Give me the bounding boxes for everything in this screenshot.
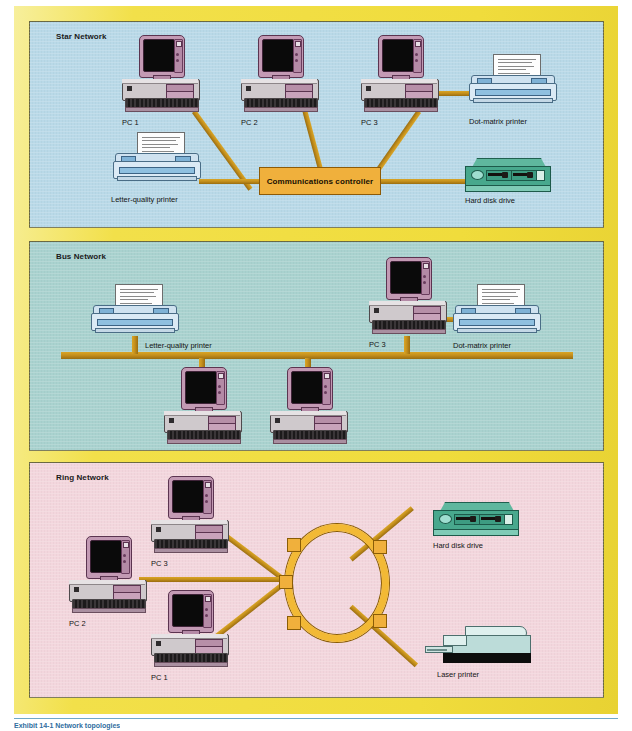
- label-ring-pc-3: PC 3: [151, 559, 168, 568]
- monitor-led: [205, 596, 211, 602]
- label-bus-pc-3: PC 3: [369, 340, 386, 349]
- monitor-led: [423, 263, 429, 269]
- label-star-letter-quality-printer: Letter-quality printer: [111, 195, 178, 204]
- printer-foot: [117, 176, 197, 181]
- laser-body-left: [443, 635, 467, 646]
- monitor-knob-icon: [423, 275, 426, 278]
- monitor-knob-icon: [176, 53, 179, 56]
- bus-drop-pc-3: [404, 336, 410, 354]
- monitor-knob-icon: [205, 614, 208, 617]
- hdd-dial-icon: [439, 514, 452, 524]
- printer-paper-slot: [475, 89, 551, 96]
- ring-node-pc3: [287, 538, 301, 552]
- ring-pc-3[interactable]: [151, 476, 227, 550]
- bus-letter-quality-printer[interactable]: [91, 284, 177, 334]
- monitor-led: [218, 373, 224, 379]
- cable-ring-pc2: [139, 577, 289, 582]
- monitor-knob-icon: [324, 385, 327, 388]
- keyboard-base: [244, 107, 318, 112]
- laser-tray-arm: [427, 649, 447, 651]
- monitor-screen: [291, 371, 323, 404]
- monitor-led: [295, 41, 301, 47]
- monitor-knob-icon: [415, 59, 418, 62]
- label-star-hard-disk-drive: Hard disk drive: [465, 196, 515, 205]
- label-bus-pc-2: PC 2: [270, 449, 287, 451]
- caption-rule: [14, 718, 618, 719]
- monitor-led: [123, 542, 129, 548]
- star-dot-matrix-printer[interactable]: [469, 54, 555, 104]
- bus-pc-3[interactable]: [369, 257, 445, 331]
- figure-network-topologies: Star Network Communications controller: [0, 0, 632, 731]
- label-bus-dot-matrix-printer: Dot-matrix printer: [453, 341, 511, 350]
- hdd-dial-icon: [471, 170, 484, 180]
- power-button-icon: [374, 308, 379, 313]
- communications-controller[interactable]: Communications controller: [259, 167, 381, 195]
- monitor-knob-icon: [123, 560, 126, 563]
- printer-paper-slot: [459, 319, 535, 326]
- monitor-knob-icon: [295, 59, 298, 62]
- star-pc-1[interactable]: [122, 35, 198, 109]
- printer-foot: [457, 328, 537, 333]
- cable-hub-to-hdd: [377, 179, 469, 184]
- label-star-pc-2: PC 2: [241, 118, 258, 127]
- bus-pc-1[interactable]: [164, 367, 240, 441]
- ring-node-pc1: [287, 616, 301, 630]
- monitor-screen: [143, 39, 175, 72]
- monitor-knob-icon: [205, 608, 208, 611]
- figure-caption: Exhibit 14-1 Network topologies: [14, 722, 120, 731]
- monitor-knob-icon: [123, 554, 126, 557]
- star-hard-disk-drive[interactable]: [465, 158, 549, 193]
- bus-pc-2[interactable]: [270, 367, 346, 441]
- keyboard-base: [72, 608, 146, 613]
- power-button-icon: [74, 587, 79, 592]
- label-star-dot-matrix-printer: Dot-matrix printer: [469, 117, 527, 126]
- hdd-base: [465, 185, 551, 192]
- power-button-icon: [366, 86, 371, 91]
- star-pc-3[interactable]: [361, 35, 437, 109]
- label-ring-hard-disk-drive: Hard disk drive: [433, 541, 483, 550]
- panel-ring-network: Ring Network PC: [29, 462, 604, 698]
- keyboard-base: [167, 439, 241, 444]
- cable-letter-printer-to-hub: [199, 179, 264, 184]
- keyboard-base: [372, 329, 446, 334]
- label-star-pc-1: PC 1: [122, 118, 139, 127]
- monitor-knob-icon: [218, 391, 221, 394]
- ring-hard-disk-drive[interactable]: [433, 502, 517, 537]
- star-pc-2[interactable]: [241, 35, 317, 109]
- power-button-icon: [275, 418, 280, 423]
- star-letter-quality-printer[interactable]: [113, 132, 199, 182]
- keyboard-base: [273, 439, 347, 444]
- monitor-knob-icon: [324, 391, 327, 394]
- monitor-screen: [262, 39, 294, 72]
- laser-base: [443, 653, 531, 663]
- monitor-knob-icon: [295, 53, 298, 56]
- monitor-knob-icon: [176, 59, 179, 62]
- power-button-icon: [246, 86, 251, 91]
- panel-title-bus: Bus Network: [56, 252, 106, 261]
- keyboard-base: [154, 548, 228, 553]
- panel-star-network: Star Network Communications controller: [29, 21, 604, 228]
- monitor-knob-icon: [205, 500, 208, 503]
- keyboard-base: [154, 662, 228, 667]
- monitor-led: [205, 482, 211, 488]
- bus-drop-letter-printer: [132, 336, 138, 354]
- hdd-bay-knob-icon: [495, 516, 501, 522]
- keyboard-base: [125, 107, 199, 112]
- ring-node-hdd: [373, 540, 387, 554]
- label-bus-pc-1: PC 1: [164, 449, 181, 451]
- monitor-screen: [172, 594, 204, 627]
- ring-laser-printer[interactable]: [425, 624, 529, 666]
- ring-pc-1[interactable]: [151, 590, 227, 664]
- bus-dot-matrix-printer[interactable]: [453, 284, 539, 334]
- printer-paper-slot: [119, 167, 195, 174]
- ring-node-pc2: [279, 575, 293, 589]
- ring-pc-2[interactable]: [69, 536, 145, 610]
- communications-controller-label: Communications controller: [267, 177, 374, 186]
- printer-paper-slot: [97, 319, 173, 326]
- power-button-icon: [169, 418, 174, 423]
- keyboard-base: [364, 107, 438, 112]
- label-ring-laser-printer: Laser printer: [437, 670, 479, 679]
- label-ring-pc-1: PC 1: [151, 673, 168, 682]
- monitor-knob-icon: [415, 53, 418, 56]
- monitor-screen: [382, 39, 414, 72]
